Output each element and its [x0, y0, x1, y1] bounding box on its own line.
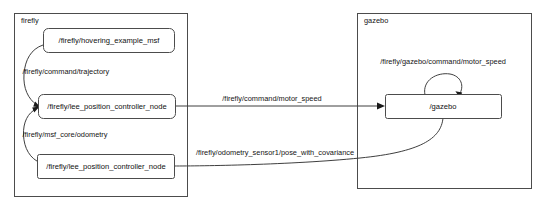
node-lee-position-controller-node-bottom[interactable]: /firefly/lee_position_controller_node: [38, 155, 175, 179]
edge-pose-with-covariance-label: /firefly/odometry_sensor1/pose_with_cova…: [196, 148, 354, 157]
cluster-firefly-label: firefly: [21, 16, 39, 25]
node-lee-position-controller-node-bottom-label: /firefly/lee_position_controller_node: [46, 162, 165, 171]
node-gazebo-label: /gazebo: [429, 102, 456, 111]
edge-command-motor-speed: /firefly/command/motor_speed: [176, 94, 385, 109]
edge-msf-core-odometry-label: /firefly/msf_core/odometry: [23, 130, 108, 139]
node-hovering-example-msf-label: /firefly/hovering_example_msf: [59, 36, 161, 45]
ros-node-graph: firefly gazebo /firefly/command/trajecto…: [0, 0, 541, 215]
node-hovering-example-msf[interactable]: /firefly/hovering_example_msf: [44, 29, 175, 53]
diagram-canvas: firefly gazebo /firefly/command/trajecto…: [0, 0, 541, 215]
edge-trajectory-label: /firefly/command/trajectory: [23, 67, 110, 76]
node-lee-position-controller-node-top[interactable]: /firefly/lee_position_controller_node: [39, 95, 176, 119]
node-gazebo[interactable]: /gazebo: [386, 95, 502, 119]
edge-command-motor-speed-label: /firefly/command/motor_speed: [222, 94, 321, 103]
cluster-gazebo-label: gazebo: [364, 16, 388, 25]
edge-gazebo-command-motor-speed-label: /firefly/gazebo/command/motor_speed: [380, 57, 506, 66]
node-lee-position-controller-node-top-label: /firefly/lee_position_controller_node: [47, 102, 166, 111]
